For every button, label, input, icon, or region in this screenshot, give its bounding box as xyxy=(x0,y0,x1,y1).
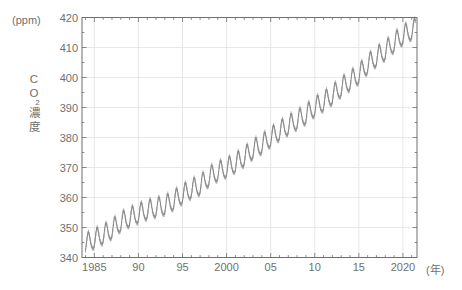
data-series xyxy=(86,16,416,252)
data-line xyxy=(86,19,416,251)
co2-concentration-chart: (ppm) C O 2 濃 度 420410400390380370360350… xyxy=(0,0,462,290)
gridlines xyxy=(82,18,417,258)
plot-area xyxy=(0,0,462,290)
